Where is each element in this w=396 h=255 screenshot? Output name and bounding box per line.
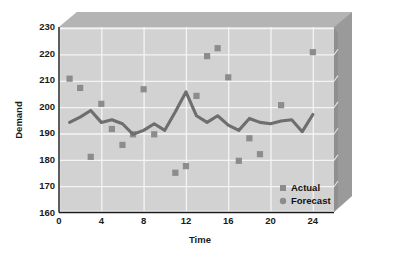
legend-marker-actual [280, 185, 286, 191]
actual-data-point [246, 135, 252, 141]
legend-marker-forecast [280, 198, 286, 204]
actual-data-point [310, 49, 316, 55]
actual-data-point [66, 76, 72, 82]
legend-label: Forecast [291, 195, 331, 206]
actual-data-point [141, 86, 147, 92]
x-axis-title: Time [189, 234, 211, 245]
actual-data-point [77, 85, 83, 91]
actual-data-point [151, 131, 157, 137]
actual-data-point [183, 163, 189, 169]
actual-data-point [98, 101, 104, 107]
y-axis-tick-labels: 160170180190200210220230 [39, 21, 55, 218]
x-tick-label: 16 [223, 215, 234, 226]
y-tick-label: 170 [39, 180, 55, 191]
x-axis-tick-labels: 04812162024 [56, 215, 318, 226]
x-tick-label: 20 [265, 215, 276, 226]
x-tick-label: 12 [181, 215, 192, 226]
y-tick-label: 210 [39, 74, 55, 85]
frame-top-face [59, 12, 352, 27]
y-tick-label: 190 [39, 127, 55, 138]
actual-data-point [204, 53, 210, 59]
y-tick-label: 180 [39, 154, 55, 165]
actual-data-point [193, 93, 199, 99]
demand-forecast-chart: 160170180190200210220230 04812162024 Dem… [0, 0, 396, 255]
actual-data-point [119, 142, 125, 148]
y-tick-label: 200 [39, 101, 55, 112]
actual-data-point [88, 154, 94, 160]
x-tick-label: 4 [99, 215, 105, 226]
x-tick-label: 24 [308, 215, 319, 226]
actual-data-point [172, 170, 178, 176]
legend-label: Actual [291, 182, 320, 193]
y-tick-label: 160 [39, 207, 55, 218]
actual-data-point [109, 126, 115, 132]
chart-canvas: 160170180190200210220230 04812162024 Dem… [0, 0, 396, 255]
x-tick-label: 0 [56, 215, 61, 226]
actual-data-point [215, 45, 221, 51]
y-tick-label: 220 [39, 48, 55, 59]
actual-data-point [236, 158, 242, 164]
actual-data-point [225, 74, 231, 80]
y-axis-title: Demand [13, 101, 24, 139]
x-tick-label: 8 [141, 215, 146, 226]
y-tick-label: 230 [39, 21, 55, 32]
actual-data-point [278, 102, 284, 108]
actual-data-point [257, 151, 263, 157]
